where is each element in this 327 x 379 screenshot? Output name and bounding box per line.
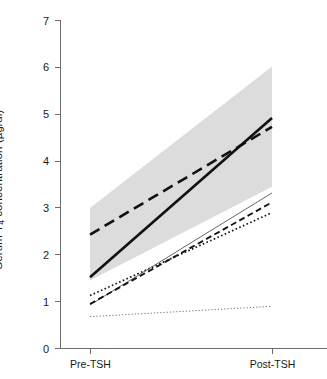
series-light-dotted-gray bbox=[90, 306, 272, 316]
y-tick-label-4: 4 bbox=[43, 155, 49, 167]
line-chart-canvas: 0 1 2 3 4 5 6 7 Pre-TSH Post-TSH bbox=[0, 0, 327, 379]
y-tick-label-6: 6 bbox=[43, 61, 49, 73]
y-tick-label-3: 3 bbox=[43, 202, 49, 214]
chart-figure: 0 1 2 3 4 5 6 7 Pre-TSH Post-TSH Serum T… bbox=[0, 0, 327, 379]
y-tick-label-5: 5 bbox=[43, 108, 49, 120]
x-axis-ticks bbox=[91, 349, 273, 355]
y-tick-label-2: 2 bbox=[43, 249, 49, 261]
y-axis-ticks bbox=[55, 21, 61, 349]
y-tick-label-7: 7 bbox=[43, 15, 49, 27]
y-tick-label-1: 1 bbox=[43, 296, 49, 308]
x-tick-label-post-tsh: Post-TSH bbox=[250, 358, 296, 370]
x-tick-label-pre-tsh: Pre-TSH bbox=[70, 358, 111, 370]
y-tick-label-0: 0 bbox=[43, 343, 49, 355]
